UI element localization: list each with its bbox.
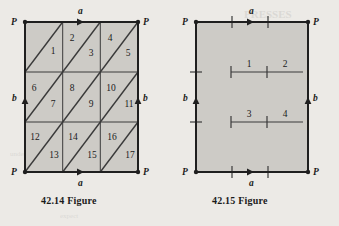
left-triangle-label-1: 1: [51, 46, 56, 56]
left-triangle-label-10: 10: [106, 83, 116, 93]
left-corner-dot-tl: [23, 20, 27, 24]
figure-42-14-group: P P P P a a b b 1 2 3 4 5 6 7 8 9 10 11 …: [11, 6, 149, 188]
left-edge-label-top: a: [78, 6, 83, 16]
left-triangle-label-7: 7: [51, 99, 56, 109]
left-triangle-label-9: 9: [89, 99, 94, 109]
figure-42-15-caption: 42.15 Figure: [212, 195, 268, 206]
left-corner-label-tl: P: [11, 17, 17, 27]
left-edge-label-bottom: a: [78, 178, 83, 188]
right-corner-label-tr: P: [313, 17, 319, 27]
right-edge-label-left: b: [183, 93, 188, 103]
right-corner-dot-bl: [194, 170, 198, 174]
left-triangle-label-6: 6: [32, 83, 37, 93]
left-triangle-label-2: 2: [70, 33, 75, 43]
left-triangle-label-13: 13: [49, 150, 59, 160]
right-corner-label-br: P: [313, 167, 319, 177]
right-corner-label-bl: P: [182, 167, 188, 177]
figure-42-14-drawing: P P P P a a b b 1 2 3 4 5 6 7 8 9 10 11 …: [0, 0, 339, 226]
right-segment-label-4: 4: [283, 109, 288, 119]
left-triangle-label-11: 11: [124, 99, 133, 109]
left-corner-label-bl: P: [11, 167, 17, 177]
left-triangle-label-4: 4: [108, 33, 113, 43]
left-triangle-label-17: 17: [125, 150, 135, 160]
right-corner-label-tl: P: [182, 17, 188, 27]
right-edge-label-top: a: [249, 6, 254, 16]
right-corner-dot-br: [306, 170, 310, 174]
left-corner-label-br: P: [143, 167, 149, 177]
right-corner-dot-tl: [194, 20, 198, 24]
left-triangle-label-3: 3: [89, 48, 94, 58]
left-triangle-label-14: 14: [68, 132, 78, 142]
right-square-fill: [196, 22, 308, 172]
right-segment-label-1: 1: [247, 59, 252, 69]
left-triangle-label-12: 12: [30, 132, 40, 142]
left-corner-label-tr: P: [143, 17, 149, 27]
right-segment-label-2: 2: [283, 59, 288, 69]
right-corner-dot-tr: [306, 20, 310, 24]
left-triangle-label-16: 16: [107, 132, 117, 142]
left-triangle-label-15: 15: [87, 150, 97, 160]
right-edge-label-right: b: [313, 93, 318, 103]
right-segment-label-3: 3: [247, 109, 252, 119]
figure-page: PRESSES under thought ends in under expe…: [0, 0, 339, 226]
figure-42-15-group: P P P P a a b b 1 2 3 4: [182, 6, 319, 188]
left-triangle-label-8: 8: [70, 83, 75, 93]
left-corner-dot-br: [136, 170, 140, 174]
left-corner-dot-tr: [136, 20, 140, 24]
left-edge-label-left: b: [12, 93, 17, 103]
left-corner-dot-bl: [23, 170, 27, 174]
left-edge-label-right: b: [143, 93, 148, 103]
figure-42-14-caption: 42.14 Figure: [41, 195, 97, 206]
right-edge-label-bottom: a: [249, 178, 254, 188]
left-triangle-label-5: 5: [126, 48, 131, 58]
